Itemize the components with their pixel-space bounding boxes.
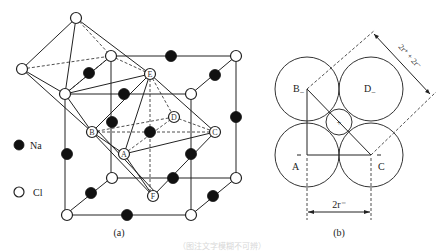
svg-text:C: C [212,128,217,137]
cl-atoms [17,13,242,221]
na-legend-icon [14,140,24,150]
atom-c: C [210,127,221,138]
atom-b: B [87,127,98,138]
legend-cl-label: Cl [33,187,43,198]
panel-a-caption: (a) [113,227,124,239]
legend-na-label: Na [30,140,42,151]
atom-e: E [145,69,156,80]
label-d: D− [364,83,376,97]
label-b: B− [293,83,305,97]
atom-a: A [119,149,130,160]
svg-text:E: E [148,70,153,79]
svg-text:D: D [171,113,177,122]
diagonal-dimension-label: 2r⁺ + 2r⁻ [397,42,424,70]
panel-b-caption: (b) [333,227,345,239]
horizontal-dimension-label: 2r⁻ [332,199,345,210]
svg-text:F: F [151,192,156,201]
cl-legend-icon [14,187,24,197]
nacl-crystal-figure: E D B C A F [0,0,445,251]
label-c: C [378,161,385,172]
panel-b-ion-packing: + B− D− A C 2r⁺ + 2r⁻ 2r⁻ (b) [275,30,436,239]
svg-text:A: A [121,150,127,159]
label-a: A [292,161,300,172]
svg-text:B: B [89,128,94,137]
legend: Na Cl [14,140,43,198]
atom-f: F [148,191,159,202]
atom-d: D [169,112,180,123]
figure-caption: （图注文字模糊不可辨） [178,241,266,251]
panel-a-crystal-structure: E D B C A F [14,13,242,240]
